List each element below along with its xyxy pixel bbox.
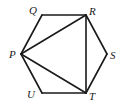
- edge-st: [86, 54, 107, 93]
- label-u: U: [27, 88, 36, 100]
- triangle-prt: [21, 15, 86, 93]
- hexagon-edges: [21, 15, 107, 93]
- label-s: S: [110, 49, 116, 61]
- label-r: R: [88, 5, 96, 17]
- hexagon-diagram: P Q R S T U: [0, 0, 118, 103]
- label-q: Q: [29, 4, 37, 16]
- label-t: T: [89, 90, 96, 102]
- label-p: P: [8, 48, 16, 60]
- edge-rs: [86, 15, 107, 54]
